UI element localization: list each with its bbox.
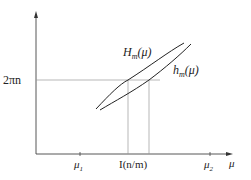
x-axis-label: μ [228, 157, 235, 169]
curve-label-H: Hm(μ) [122, 45, 151, 61]
tick-label-I: I(n/m) [119, 158, 147, 171]
x-axis-arrow-icon [226, 152, 233, 156]
level-label: 2πn [3, 73, 21, 87]
diagram-canvas: 2πn Hm(μ) hm(μ) μ1 I(n/m) μ2 μ [0, 0, 251, 180]
curve-label-h: hm(μ) [173, 63, 199, 79]
tick-label-mu2: μ2 [203, 158, 214, 173]
y-axis-arrow-icon [34, 11, 38, 18]
tick-label-mu1: μ1 [73, 158, 83, 173]
